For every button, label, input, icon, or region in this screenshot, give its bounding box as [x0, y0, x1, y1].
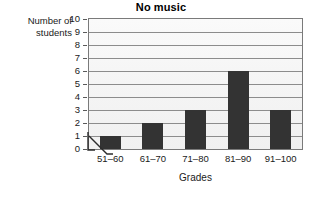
y-tick-mark [83, 32, 87, 33]
y-tick-mark [83, 84, 87, 85]
y-tick-mark [83, 71, 87, 72]
gridline [89, 97, 302, 98]
y-tick-label: 8 [64, 40, 80, 50]
y-tick-mark [83, 123, 87, 124]
gridline [89, 84, 302, 85]
y-tick-label: 3 [64, 105, 80, 115]
y-tick-label: 9 [64, 27, 80, 37]
x-axis-label: Grades [88, 172, 303, 183]
y-axis-label-line-2: students [4, 27, 72, 39]
y-tick-mark [83, 45, 87, 46]
bar [228, 71, 249, 149]
x-tick-label: 91–100 [256, 153, 306, 164]
y-tick-label: 2 [64, 118, 80, 128]
bar [270, 110, 291, 149]
y-tick-label: 0 [64, 144, 80, 154]
gridline [89, 71, 302, 72]
y-tick-mark [83, 110, 87, 111]
y-axis-label-line-1: Number of [4, 15, 72, 27]
y-tick-label: 1 [64, 131, 80, 141]
y-tick-label: 6 [64, 66, 80, 76]
y-tick-label: 7 [64, 53, 80, 63]
y-tick-mark [83, 58, 87, 59]
gridline [89, 32, 302, 33]
gridline [89, 58, 302, 59]
gridline [89, 45, 302, 46]
y-tick-mark [83, 97, 87, 98]
y-tick-label: 5 [64, 79, 80, 89]
bar [142, 123, 163, 149]
chart-title: No music [0, 1, 322, 13]
y-axis-label: Number of students [4, 15, 72, 38]
bar [185, 110, 206, 149]
y-tick-label: 4 [64, 92, 80, 102]
y-tick-mark [83, 19, 87, 20]
y-tick-label: 10 [64, 14, 80, 24]
